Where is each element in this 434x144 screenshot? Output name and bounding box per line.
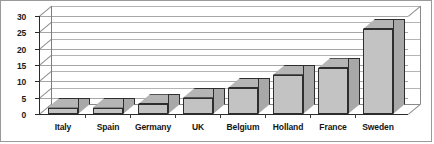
y-tickmark-5 [35,98,39,99]
x-tickmark-2 [130,114,131,118]
bar-belgium-side [258,78,270,114]
y-axis-label-30: 30 [4,13,26,21]
x-axis-label-france: France [308,122,358,132]
bar-belgium-front [228,88,258,114]
bar-italy-front [48,108,78,115]
right-wall-edge [420,6,421,104]
y-axis-label-15: 15 [4,62,26,70]
plot-area: 0 5 10 15 20 25 30 [1,1,433,143]
bar-sweden-side [393,19,405,114]
x-tickmark-6 [310,114,311,118]
x-tickmark-7 [355,114,356,118]
x-tickmark-4 [220,114,221,118]
bar-italy-side [78,98,90,115]
bar-france-side [348,58,360,114]
y-axis-label-25: 25 [4,29,26,37]
bar-france [318,1,348,121]
bar-holland-front [273,75,303,114]
x-axis-label-sweden: Sweden [353,122,403,132]
x-axis-label-holland: Holland [263,122,313,132]
x-axis-label-belgium: Belgium [218,122,268,132]
bar-italy [48,1,78,121]
y-tickmark-30 [35,16,39,17]
x-axis-label-uk: UK [173,122,223,132]
y-axis [39,16,40,115]
y-tickmark-25 [35,32,39,33]
bar-spain-front [93,108,123,115]
bar-chart: 0 5 10 15 20 25 30 [0,0,432,142]
y-axis-label-5: 5 [4,95,26,103]
bar-spain [93,1,123,121]
x-axis-label-spain: Spain [83,122,133,132]
y-axis-label-10: 10 [4,78,26,86]
bar-sweden [363,1,393,131]
y-tickmark-15 [35,65,39,66]
depth-connector-right-30 [408,6,421,17]
y-axis-label-0: 0 [4,111,26,119]
bar-uk-front [183,98,213,114]
bar-belgium [228,1,258,121]
x-tickmark-1 [85,114,86,118]
bar-france-front [318,68,348,114]
x-tickmark-5 [265,114,266,118]
bar-uk [183,1,213,121]
bar-uk-side [213,88,225,114]
depth-connector-right-0 [408,104,421,115]
bar-germany [138,1,168,121]
bar-spain-side [123,98,135,115]
y-tickmark-10 [35,81,39,82]
y-tickmark-20 [35,49,39,50]
bar-germany-side [168,94,180,114]
x-axis-label-italy: Italy [38,122,88,132]
bar-holland-side [303,65,315,114]
y-tickmark-0 [35,114,39,115]
bar-holland [273,1,303,121]
x-tickmark-3 [175,114,176,118]
bar-sweden-front [363,29,393,114]
y-axis-label-20: 20 [4,46,26,54]
bar-germany-front [138,104,168,114]
x-axis-label-germany: Germany [128,122,178,132]
